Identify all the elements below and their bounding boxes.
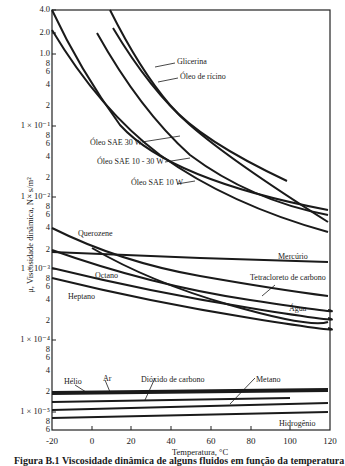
y-tick: 4 [0,80,50,89]
label-oleo-ricino: Óleo de rícino [180,72,226,81]
y-tick: 1.0 [0,49,50,58]
label-ar: Ar [103,374,111,383]
label-metano: Metano [256,375,280,384]
x-tick: 60 [196,436,226,446]
curve-co2 [52,398,290,402]
x-tick: 40 [156,436,186,446]
y-tick: 2.0 [0,28,50,37]
label-octano: Octano [95,271,118,280]
label-sae30: Óleo SAE 30 W [90,138,142,147]
y-tick: 6 [0,353,50,362]
y-tick: 4 [0,366,50,375]
y-tick: 1 × 10⁻¹ [0,121,50,130]
x-tick: 80 [236,436,266,446]
label-heptano: Heptano [68,292,95,301]
figure-caption: Figura B.1 Viscosidade dinâmica de algun… [14,455,344,466]
y-tick: 6 [0,67,50,76]
y-tick: 1 × 10⁻⁴ [0,335,50,344]
label-agua: Água [289,304,306,313]
label-querozene: Querozene [78,229,113,238]
curve-querozene [52,228,328,296]
curve-metano [52,403,328,410]
y-tick: 4.0 [0,5,50,14]
label-glicerina: Glicerina [177,57,207,66]
y-tick: 6 [0,425,50,434]
y-tick: 2 [0,387,50,396]
label-tetracloreto: Tetracloreto de carbono [250,273,326,282]
label-sae10: Óleo SAE 10 W [131,178,183,187]
label-sae1030: Óleo SAE 10 - 30 W [97,157,164,166]
x-tick: 0 [77,436,107,446]
y-tick: 2 [0,101,50,110]
y-axis-label: μ, Viscosidade dinâmica, N · s/m² [25,145,35,325]
x-tick: 120 [315,436,345,446]
curve-helio-ar [52,390,328,393]
label-mercurio: Mercúrio [278,252,308,261]
curve-oleo-ricino [113,28,328,222]
x-tick: 20 [116,436,146,446]
x-tick: 100 [275,436,305,446]
label-helio: Hélio [64,377,82,386]
label-co2: Dióxido de carbono [141,375,205,384]
x-tick: -20 [37,436,67,446]
label-hidrogenio: Hidrogênio [279,419,315,428]
y-tick: 1 × 10⁻⁵ [0,407,50,416]
curve-hidrogenio [52,412,328,418]
